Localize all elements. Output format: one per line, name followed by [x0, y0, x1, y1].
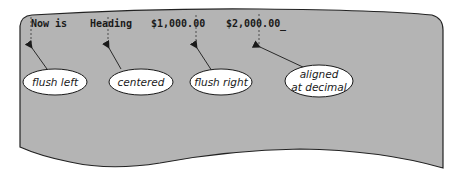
tab-alignment-diagram: Now is Heading $1,000.00 $2,000.00 _ flu… — [0, 0, 453, 180]
text-cursor: _ — [280, 19, 287, 31]
callout-label-line-2: at decimal — [291, 81, 346, 93]
callout-label: flush left — [32, 76, 79, 88]
text-amount-1: $1,000.00 — [151, 18, 205, 29]
callout-label: flush right — [194, 76, 248, 88]
callout-flush-left: flush left — [23, 69, 87, 95]
callout-centered: centered — [109, 69, 173, 95]
callout-label-line-1: aligned — [300, 68, 339, 80]
text-now-is: Now is — [31, 18, 67, 29]
callout-decimal: aligned at decimal — [285, 65, 353, 97]
text-heading: Heading — [90, 18, 132, 29]
callout-flush-right: flush right — [190, 69, 252, 95]
callout-label: centered — [118, 76, 165, 88]
text-amount-2: $2,000.00 — [226, 18, 280, 29]
